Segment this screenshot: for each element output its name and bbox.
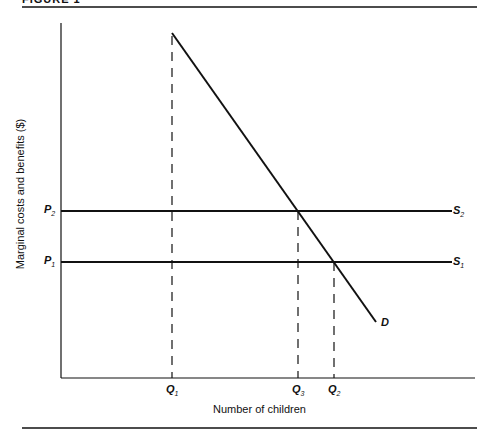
demand-line xyxy=(172,33,376,322)
q2-label: Q2 xyxy=(328,383,340,397)
p2-label: P2 xyxy=(44,203,55,217)
d-label: D xyxy=(381,316,389,328)
y-axis-title: Marginal costs and benefits ($) xyxy=(14,104,26,284)
q3-label: Q3 xyxy=(292,383,304,397)
s1-label: S1 xyxy=(453,255,464,269)
s2-label: S2 xyxy=(453,204,464,218)
p1-label: P1 xyxy=(44,254,55,268)
x-axis-title: Number of children xyxy=(213,403,306,415)
chart-canvas xyxy=(0,0,493,438)
q1-label: Q1 xyxy=(166,383,178,397)
